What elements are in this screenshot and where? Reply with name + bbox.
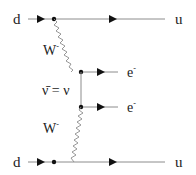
label-top-u: u [175,11,183,27]
label-top-w: W- [43,42,59,58]
bottom-quark-line [28,158,165,166]
vertex-dot [52,160,56,164]
arrow-icon [37,15,45,23]
label-neutrino: ν̄ = ν [42,83,70,98]
arrow-icon [37,158,45,166]
arrow-icon [97,68,105,76]
bottom-w-boson-line [71,107,83,162]
feynman-diagram: d u W- e- ν̄ = ν e- W- d u [0,0,196,175]
label-bottom-w: W- [43,120,59,136]
arrow-icon [109,158,117,166]
label-top-d: d [13,11,21,27]
lower-electron-line [79,103,118,111]
label-lower-electron: e- [127,99,136,115]
label-bottom-u: u [175,154,183,170]
arrow-icon [109,15,117,23]
upper-electron-line [79,68,118,76]
label-upper-electron: e- [127,64,136,80]
arrow-icon [97,103,105,111]
label-bottom-d: d [13,154,21,170]
top-quark-line [28,15,165,23]
